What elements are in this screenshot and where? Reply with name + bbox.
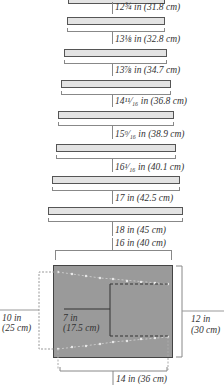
inner-width-label-line2: (17.5 cm) (63, 323, 99, 334)
right-height-label-line1: 12 in (191, 314, 210, 325)
bottom-width-label: 14 in (36 cm) (116, 374, 167, 385)
right-height-label-line2: (30 cm) (191, 325, 220, 336)
left-height-label-line2: (25 cm) (2, 323, 31, 334)
